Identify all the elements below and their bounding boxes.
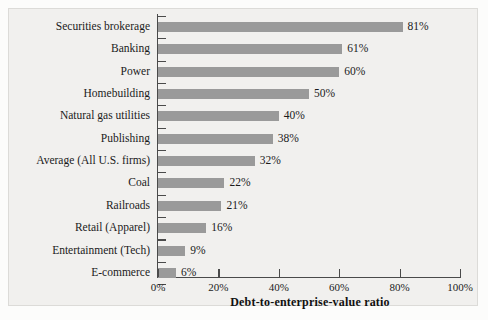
- bar: [158, 134, 273, 144]
- y-axis-tick: [158, 150, 166, 151]
- y-axis-tick: [158, 239, 166, 240]
- category-label: Securities brokerage: [56, 21, 150, 33]
- bar: [158, 223, 206, 233]
- y-axis-tick: [158, 61, 166, 62]
- x-axis-tick-label: 40%: [269, 281, 289, 293]
- x-axis-tick-label: 20%: [208, 281, 228, 293]
- y-axis-tick: [158, 16, 166, 17]
- category-label: Retail (Apparel): [75, 222, 150, 234]
- y-axis-tick: [158, 217, 166, 218]
- category-label: Coal: [128, 178, 150, 190]
- bar: [158, 67, 339, 77]
- plot-area: Securities brokerage81%Banking61%Power60…: [0, 0, 488, 320]
- bar: [158, 22, 403, 32]
- bar-value-label: 6%: [181, 267, 196, 279]
- y-axis-tick: [158, 172, 166, 173]
- y-axis-tick: [158, 38, 166, 39]
- y-axis-tick: [158, 262, 166, 263]
- bar: [158, 201, 221, 211]
- bar: [158, 44, 342, 54]
- x-axis-tick: [339, 269, 340, 277]
- category-label: E-commerce: [91, 267, 150, 279]
- x-axis-line: [157, 277, 461, 278]
- x-axis-tick: [460, 269, 461, 277]
- bar-value-label: 16%: [211, 222, 232, 234]
- bar-value-label: 22%: [229, 178, 250, 190]
- category-label: Average (All U.S. firms): [36, 155, 150, 167]
- bar: [158, 156, 255, 166]
- bar-value-label: 32%: [260, 155, 281, 167]
- x-axis-tick-label: 60%: [329, 281, 349, 293]
- bar-value-label: 60%: [344, 66, 365, 78]
- x-axis-tick: [279, 269, 280, 277]
- category-label: Power: [121, 66, 150, 78]
- x-axis-tick: [158, 269, 159, 277]
- bar-value-label: 50%: [314, 88, 335, 100]
- y-axis-tick: [158, 105, 166, 106]
- y-axis-tick: [158, 195, 166, 196]
- y-axis-tick: [158, 83, 166, 84]
- bar-value-label: 81%: [408, 21, 429, 33]
- bar-value-label: 61%: [347, 44, 368, 56]
- chart-figure: Securities brokerage81%Banking61%Power60…: [0, 0, 488, 320]
- category-label: Natural gas utilities: [60, 111, 150, 123]
- category-label: Publishing: [101, 133, 150, 145]
- category-label: Entertainment (Tech): [52, 245, 150, 257]
- bar: [158, 268, 176, 278]
- bar: [158, 111, 279, 121]
- bar: [158, 89, 309, 99]
- category-label: Homebuilding: [84, 88, 150, 100]
- x-axis-tick-label: 80%: [390, 281, 410, 293]
- x-axis-tick: [400, 269, 401, 277]
- y-axis-tick: [158, 128, 166, 129]
- x-axis-tick-label: 0%: [151, 281, 166, 293]
- x-axis-title: Debt-to-enterprise-value ratio: [158, 295, 462, 310]
- x-axis-tick-label: 100%: [447, 281, 473, 293]
- category-label: Banking: [111, 44, 150, 56]
- x-axis-tick: [218, 269, 219, 277]
- bar-value-label: 40%: [284, 111, 305, 123]
- bar-value-label: 21%: [226, 200, 247, 212]
- bar-value-label: 9%: [190, 245, 205, 257]
- bar: [158, 178, 224, 188]
- bar: [158, 246, 185, 256]
- category-label: Railroads: [106, 200, 150, 212]
- bar-value-label: 38%: [278, 133, 299, 145]
